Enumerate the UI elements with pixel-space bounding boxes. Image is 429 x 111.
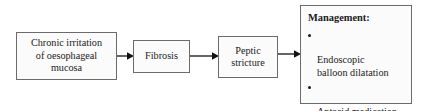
list-item: Endoscopic balloon dilatation (308, 29, 406, 78)
node-fibrosis-label: Fibrosis (145, 50, 178, 62)
bullet-icon (308, 34, 311, 37)
flowchart-canvas: Chronic irritation of oesophageal mucosa… (0, 0, 429, 111)
management-item-label: Endoscopic balloon dilatation (317, 54, 389, 77)
node-management-panel: Management: Endoscopic balloon dilatatio… (300, 5, 412, 104)
node-fibrosis: Fibrosis (133, 40, 190, 73)
arrow-fibrosis-to-stricture-icon (190, 50, 219, 62)
list-item: Antacid medication (308, 81, 406, 111)
management-title: Management: (308, 12, 406, 24)
management-list: Endoscopic balloon dilatation Antacid me… (308, 29, 406, 111)
node-chronic-irritation: Chronic irritation of oesophageal mucosa (16, 32, 117, 80)
node-peptic-stricture: Peptic stricture (218, 36, 278, 78)
node-peptic-stricture-label: Peptic stricture (231, 45, 264, 70)
arrow-cause-to-fibrosis-icon (117, 50, 134, 62)
management-item-label: Antacid medication (317, 106, 397, 111)
node-chronic-irritation-label: Chronic irritation of oesophageal mucosa (31, 37, 102, 74)
arrow-stricture-to-management-icon (278, 48, 301, 60)
bullet-icon (308, 86, 311, 89)
